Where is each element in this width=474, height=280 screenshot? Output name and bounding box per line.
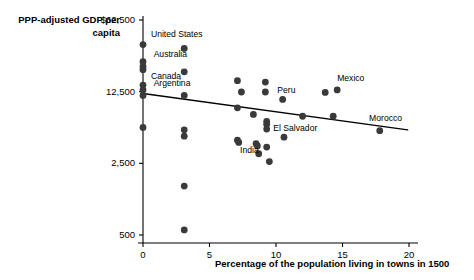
point-label: Morocco [369,113,402,123]
x-tick-label: 15 [328,249,358,260]
data-point [281,134,288,141]
x-tick-label: 0 [128,249,158,260]
data-point [140,66,147,73]
data-point [266,158,273,165]
y-tick-label: $62,500 [75,14,135,25]
data-point [250,111,257,118]
data-point [181,183,188,190]
data-point [140,41,147,48]
point-label: Peru [277,85,295,95]
data-point [234,104,241,111]
x-tick-label: 20 [394,249,424,260]
y-tick-label: 500 [75,229,135,240]
point-label: Mexico [337,73,364,83]
point-label: El Salvador [273,123,317,133]
point-label: Argentina [154,78,191,88]
data-point [322,89,329,96]
data-point [181,227,188,234]
x-tick-label: 5 [195,249,225,260]
data-point [181,68,188,75]
data-point [262,79,269,86]
plot-area [0,0,474,280]
data-point [181,126,188,133]
data-point [140,92,147,99]
data-point [263,126,270,133]
point-label: India [240,145,259,155]
data-point [181,133,188,140]
point-label: Australia [154,49,187,59]
data-point [263,144,270,151]
data-point [334,87,341,94]
data-point [181,92,188,99]
y-tick-label: 12,500 [75,86,135,97]
scatter-chart: PPP-adjusted GDP per capita Percentage o… [0,0,474,280]
y-tick-label: 2,500 [75,157,135,168]
data-point [140,124,147,131]
point-label: United States [151,29,203,39]
data-point [279,96,286,103]
data-point [299,113,306,120]
data-point [330,113,337,120]
data-point [238,89,245,96]
data-point [234,77,241,84]
x-tick-label: 10 [261,249,291,260]
data-point [376,127,383,134]
data-point [262,89,269,96]
